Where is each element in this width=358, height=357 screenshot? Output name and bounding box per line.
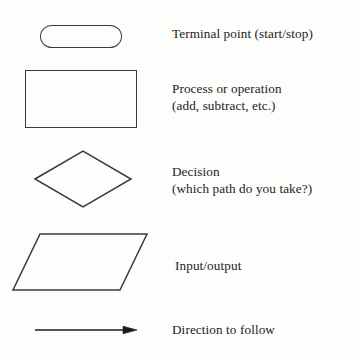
direction-arrow-svg xyxy=(30,318,145,342)
input-output-label-line-1: Input/output xyxy=(175,257,241,274)
input-output-parallelogram-svg xyxy=(8,228,154,296)
decision-label-line-2: (which path do you take?) xyxy=(172,180,312,197)
direction-arrow-shape xyxy=(30,318,145,342)
terminal-point-shape xyxy=(40,25,122,48)
decision-shape xyxy=(33,149,133,209)
flowchart-symbols-legend: Terminal point (start/stop) Process or o… xyxy=(0,0,358,357)
process-label-line-2: (add, subtract, etc.) xyxy=(172,97,282,114)
input-output-label: Input/output xyxy=(175,257,241,274)
terminal-point-label: Terminal point (start/stop) xyxy=(172,25,313,42)
input-output-shape xyxy=(8,228,154,296)
process-label-line-1: Process or operation xyxy=(172,80,282,97)
decision-label: Decision (which path do you take?) xyxy=(172,163,312,197)
terminal-point-label-line-1: Terminal point (start/stop) xyxy=(172,25,313,42)
process-label: Process or operation (add, subtract, etc… xyxy=(172,80,282,114)
decision-label-line-1: Decision xyxy=(172,163,312,180)
direction-label-line-1: Direction to follow xyxy=(172,321,275,338)
process-shape xyxy=(25,70,137,128)
direction-label: Direction to follow xyxy=(172,321,275,338)
decision-diamond-svg xyxy=(33,149,133,209)
